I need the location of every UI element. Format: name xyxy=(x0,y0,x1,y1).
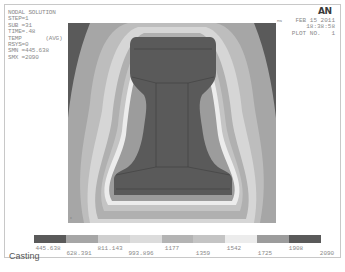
info-line: SMX =2090 xyxy=(8,55,62,61)
timestamp-block: FEB 15 2011 18:38:58 PLOT NO. 1 xyxy=(292,18,335,37)
caption: Casting xyxy=(9,251,40,261)
legend-swatch-5 xyxy=(162,235,194,243)
legend-swatch-8 xyxy=(257,235,289,243)
contour-plot: x xyxy=(68,23,276,223)
svg-text:x: x xyxy=(70,217,72,220)
legend-swatch-2 xyxy=(66,235,98,243)
solution-info: NODAL SOLUTION STEP=1 SUB =31 TIME=.48 T… xyxy=(8,10,62,61)
legend-swatch-9 xyxy=(289,235,321,243)
plot-number: PLOT NO. 1 xyxy=(292,31,335,37)
color-legend xyxy=(34,235,321,243)
min-marker: MN xyxy=(277,19,282,23)
ansys-logo: AN xyxy=(318,6,332,16)
legend-swatch-6 xyxy=(193,235,225,243)
legend-swatch-4 xyxy=(130,235,162,243)
legend-swatch-3 xyxy=(98,235,130,243)
legend-swatch-7 xyxy=(225,235,257,243)
legend-swatch-1 xyxy=(34,235,66,243)
